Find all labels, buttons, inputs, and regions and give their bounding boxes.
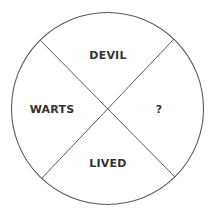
segment-top-label: DEVIL: [89, 49, 126, 62]
segment-bottom-label: LIVED: [89, 157, 126, 170]
puzzle-diagram: DEVIL WARTS LIVED ?: [0, 0, 211, 218]
segment-right-question-mark: ?: [156, 103, 163, 116]
segment-left-label: WARTS: [30, 103, 75, 116]
